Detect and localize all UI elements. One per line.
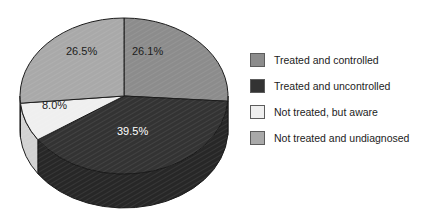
legend-swatch-icon [250, 53, 265, 67]
slice-label-treated-uncontrolled: 39.5% [117, 125, 148, 137]
legend-swatch-icon [250, 131, 265, 145]
slice-label-not-treated-undiagnosed: 26.5% [66, 45, 97, 57]
slice-label-treated-controlled: 26.1% [132, 45, 163, 57]
chart-legend: Treated and controlled Treated and uncon… [250, 47, 427, 151]
legend-item-treated-controlled[interactable]: Treated and controlled [250, 47, 427, 73]
legend-item-label: Not treated and undiagnosed [274, 133, 409, 144]
pie-chart: 26.1% 26.5% 8.0% 39.5% [0, 0, 250, 217]
legend-item-not-treated-undiagnosed[interactable]: Not treated and undiagnosed [250, 125, 427, 151]
legend-item-label: Treated and uncontrolled [274, 81, 390, 92]
legend-swatch-icon [250, 105, 265, 119]
legend-item-not-treated-aware[interactable]: Not treated, but aware [250, 99, 427, 125]
legend-swatch-icon [250, 79, 265, 93]
chart-root: 26.1% 26.5% 8.0% 39.5% Treated and contr… [0, 0, 427, 217]
legend-item-label: Treated and controlled [274, 55, 379, 66]
legend-item-label: Not treated, but aware [274, 107, 378, 118]
pie-chart-svg [0, 0, 250, 217]
slice-label-not-treated-aware: 8.0% [42, 99, 67, 111]
legend-item-treated-uncontrolled[interactable]: Treated and uncontrolled [250, 73, 427, 99]
